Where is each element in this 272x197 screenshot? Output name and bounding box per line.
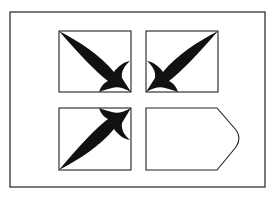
panel-top-right bbox=[146, 31, 218, 92]
panel-bottom-left bbox=[59, 108, 131, 170]
panel-top-left bbox=[59, 31, 131, 92]
diagram-canvas bbox=[0, 0, 272, 197]
outer-frame bbox=[10, 12, 265, 187]
tag-shape bbox=[146, 108, 239, 170]
leaf-ornament-icon bbox=[59, 31, 131, 92]
leaf-ornament-icon bbox=[146, 31, 218, 92]
leaf-ornament-icon bbox=[59, 108, 131, 170]
panel-bottom-right bbox=[146, 108, 239, 170]
